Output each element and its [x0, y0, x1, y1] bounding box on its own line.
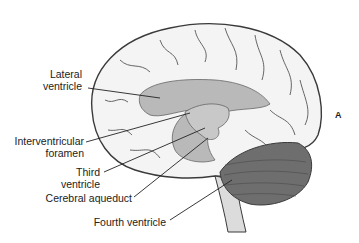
label-line: Third: [40, 166, 100, 178]
brain-illustration: [0, 0, 359, 243]
label-line: ventricle: [20, 80, 82, 92]
brain-ventricles-diagram: Lateral ventricle Interventricular foram…: [0, 0, 359, 243]
label-cerebral-aqueduct: Cerebral aqueduct: [20, 192, 132, 204]
label-line: Fourth ventricle: [60, 216, 166, 228]
label-fourth-ventricle: Fourth ventricle: [60, 216, 166, 228]
panel-letter: A: [335, 110, 342, 120]
label-line: Lateral: [20, 68, 82, 80]
label-interventricular-foramen: Interventricular foramen: [0, 135, 84, 159]
label-line: foramen: [0, 147, 84, 159]
label-line: Interventricular: [0, 135, 84, 147]
label-line: ventricle: [40, 178, 100, 190]
label-third-ventricle: Third ventricle: [40, 166, 100, 190]
label-line: Cerebral aqueduct: [20, 192, 132, 204]
label-lateral-ventricle: Lateral ventricle: [20, 68, 82, 92]
